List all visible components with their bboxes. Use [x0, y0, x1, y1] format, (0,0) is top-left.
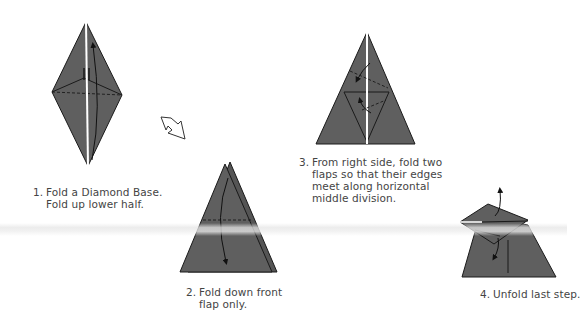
step-1-caption: 1.Fold a Diamond Base. Fold up lower hal… — [33, 186, 162, 210]
step-2-caption: 2.Fold down front flap only. — [186, 286, 282, 310]
step-2-line-2: flap only. — [186, 298, 282, 310]
step-3-line-4: middle division. — [299, 192, 442, 204]
step-1-line-1: Fold a Diamond Base. — [46, 186, 162, 198]
step-4-number: 4. — [480, 288, 493, 300]
step-3-line-2: flaps so that their edges — [299, 168, 442, 180]
step-4-line-1: Unfold last step. — [493, 288, 580, 300]
step-3-line-3: meet along horizontal — [299, 180, 442, 192]
step-2-line-1: Fold down front — [199, 286, 282, 298]
step-2-number: 2. — [186, 286, 199, 298]
step-1-line-2: Fold up lower half. — [33, 198, 162, 210]
step-3-number: 3. — [299, 156, 312, 168]
diagram-3-triangle-flaps — [316, 32, 415, 144]
diagram-2-triangle — [180, 162, 277, 272]
diagram-1-diamond-base — [52, 22, 122, 166]
step-3-line-1: From right side, fold two — [312, 156, 442, 168]
hollow-arrow-icon — [161, 117, 185, 139]
diagram-4-unfold — [460, 190, 556, 277]
step-1-number: 1. — [33, 186, 46, 198]
step-3-caption: 3.From right side, fold two flaps so tha… — [299, 156, 442, 204]
step-4-caption: 4.Unfold last step. — [480, 288, 580, 300]
